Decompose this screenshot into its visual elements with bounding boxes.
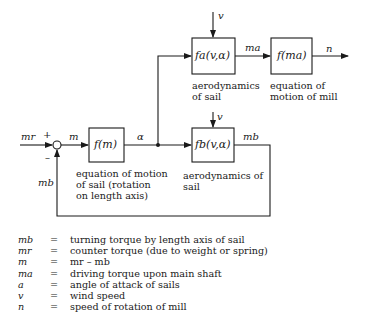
block-fma-label: f(ma)	[277, 50, 307, 61]
legend-row: v=wind speed	[18, 290, 268, 301]
signal-v-top: v	[218, 10, 224, 21]
signal-alpha: α	[137, 131, 144, 142]
caption-fm: equation of motion of sail (rotation on …	[76, 168, 168, 201]
caption-fa: aerodynamics of sail	[192, 80, 260, 102]
branch-point	[156, 143, 160, 147]
signal-v-mid: v	[217, 111, 223, 122]
signal-mb-feedback: mb	[38, 177, 54, 188]
legend-row: a=angle of attack of sails	[18, 279, 268, 290]
signal-plus: +	[43, 129, 51, 140]
caption-fma: equation of motion of mill	[270, 80, 337, 102]
legend-row: m=mr – mb	[18, 256, 268, 267]
block-fb-label: fb(v,α)	[195, 139, 231, 150]
legend-row: n=speed of rotation of mill	[18, 301, 268, 312]
signal-mr: mr	[21, 131, 35, 142]
signal-n: n	[326, 43, 332, 54]
signal-m: m	[69, 131, 78, 142]
signal-ma: ma	[245, 42, 260, 53]
legend: mb=turning torque by length axis of sail…	[18, 234, 268, 312]
legend-row: mr=counter torque (due to weight or spri…	[18, 245, 268, 256]
signal-minus: –	[45, 152, 50, 163]
block-fm-label: f(m)	[94, 139, 117, 150]
legend-row: mb=turning torque by length axis of sail	[18, 234, 268, 245]
legend-row: ma=driving torque upon main shaft	[18, 268, 268, 279]
caption-fb: aerodynamics of sail	[183, 170, 263, 192]
signal-mb-out: mb	[243, 131, 259, 142]
block-fa-label: fa(v,α)	[195, 50, 230, 61]
summing-junction	[53, 141, 61, 149]
